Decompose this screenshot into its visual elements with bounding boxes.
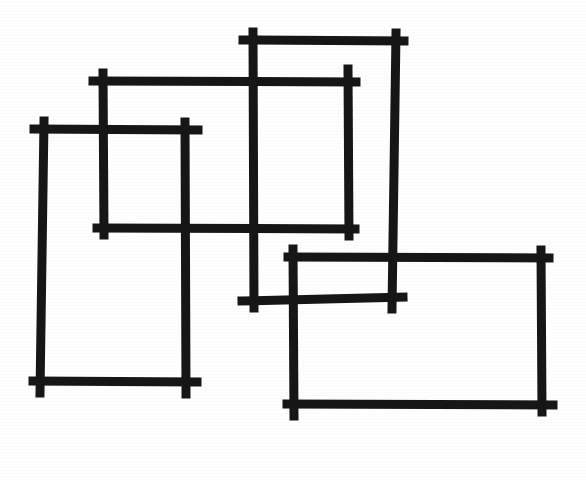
rect-tall-left-rectangle-bottom-edge — [33, 381, 197, 382]
rect-upper-left-wide-rectangle-right-edge — [348, 69, 349, 236]
rect-lower-right-wide-rectangle-bottom-edge — [287, 404, 553, 405]
rect-tall-left-rectangle-left-edge — [40, 121, 44, 393]
rect-upper-right-tall-rectangle-left-edge — [253, 32, 254, 308]
rect-upper-right-tall-rectangle-right-edge — [392, 33, 396, 309]
rect-upper-right-tall-rectangle-bottom-edge — [242, 297, 403, 301]
rect-upper-left-wide-rectangle-left-edge — [103, 73, 104, 235]
rect-upper-right-tall-rectangle-top-edge — [243, 40, 404, 41]
rect-lower-right-wide-rectangle-right-edge — [541, 250, 542, 412]
rect-upper-left-wide-rectangle-top-edge — [93, 81, 356, 82]
rect-tall-left-rectangle-top-edge — [34, 129, 198, 130]
sketch-svg — [0, 0, 586, 480]
drawing-canvas — [0, 0, 586, 480]
rect-lower-right-wide-rectangle-top-edge — [288, 257, 549, 258]
rect-lower-right-wide-rectangle-left-edge — [293, 249, 294, 416]
rect-upper-left-wide-rectangle-bottom-edge — [97, 228, 355, 229]
rect-tall-left-rectangle-right-edge — [185, 122, 186, 394]
